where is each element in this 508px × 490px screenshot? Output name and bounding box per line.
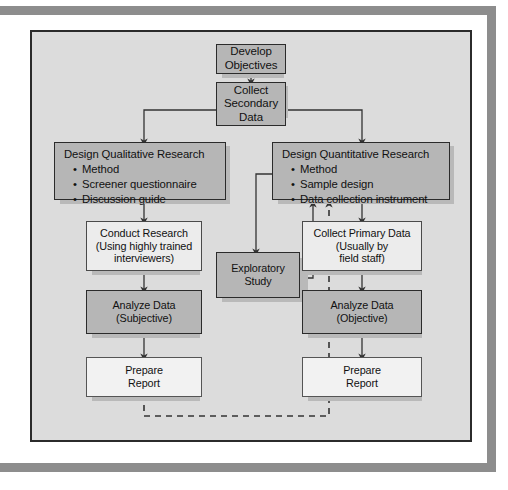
bullet-item: Data collection instrument	[300, 192, 446, 207]
node-line: (Using highly trained	[90, 240, 198, 253]
node-line: Prepare	[306, 364, 418, 377]
bullet-item: Discussion guide	[82, 192, 222, 207]
node-title: Design Qualitative Research	[58, 148, 222, 161]
bullet-item: Sample design	[300, 177, 446, 192]
node-line: Report	[306, 377, 418, 390]
node-line: Prepare	[90, 364, 198, 377]
node-conduct-research[interactable]: Conduct Research (Using highly trained i…	[86, 221, 202, 271]
bullet-item: Screener questionnaire	[82, 177, 222, 192]
node-line: field staff)	[306, 252, 418, 265]
node-develop-objectives[interactable]: Develop Objectives	[216, 44, 286, 74]
node-line: Objectives	[220, 59, 282, 73]
frame-bar-top	[0, 6, 496, 15]
node-line: Data	[220, 111, 282, 125]
node-design-qualitative-research[interactable]: Design Qualitative Research Method Scree…	[54, 142, 226, 200]
frame-bar-right	[487, 6, 496, 472]
node-line: interviewers)	[90, 252, 198, 265]
node-exploratory-study[interactable]: Exploratory Study	[216, 252, 300, 298]
node-design-quantitative-research[interactable]: Design Quantitative Research Method Samp…	[272, 142, 450, 200]
node-line: Analyze Data	[306, 299, 418, 312]
node-collect-primary-data[interactable]: Collect Primary Data (Usually by field s…	[302, 221, 422, 271]
node-line: Analyze Data	[90, 299, 198, 312]
flowchart-canvas: Develop Objectives Collect Secondary Dat…	[32, 32, 470, 440]
node-line: Develop	[220, 45, 282, 59]
flowchart-panel: Develop Objectives Collect Secondary Dat…	[30, 30, 472, 442]
node-line: Collect	[220, 84, 282, 98]
node-prepare-report-right[interactable]: Prepare Report	[302, 357, 422, 397]
node-line: (Usually by	[306, 240, 418, 253]
bullet-item: Method	[300, 162, 446, 177]
node-analyze-data-subjective[interactable]: Analyze Data (Subjective)	[86, 290, 202, 334]
node-prepare-report-left[interactable]: Prepare Report	[86, 357, 202, 397]
bullet-list: Method Sample design Data collection ins…	[276, 162, 446, 207]
node-analyze-data-objective[interactable]: Analyze Data (Objective)	[302, 290, 422, 334]
bullet-list: Method Screener questionnaire Discussion…	[58, 162, 222, 207]
node-title: Design Quantitative Research	[276, 148, 446, 161]
image-frame: Develop Objectives Collect Secondary Dat…	[0, 0, 508, 490]
node-line: Report	[90, 377, 198, 390]
node-line: Study	[220, 275, 296, 288]
node-line: Collect Primary Data	[306, 227, 418, 240]
bullet-item: Method	[82, 162, 222, 177]
node-collect-secondary-data[interactable]: Collect Secondary Data	[216, 82, 286, 126]
frame-bar-bottom	[0, 463, 496, 472]
node-line: Conduct Research	[90, 227, 198, 240]
node-line: Exploratory	[220, 262, 296, 275]
node-line: (Subjective)	[90, 312, 198, 325]
node-line: Secondary	[220, 97, 282, 111]
node-line: (Objective)	[306, 312, 418, 325]
